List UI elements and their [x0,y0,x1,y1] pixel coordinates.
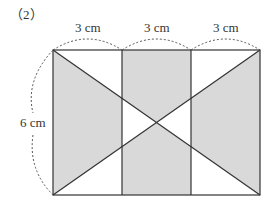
rectangle-diagram [0,0,278,205]
